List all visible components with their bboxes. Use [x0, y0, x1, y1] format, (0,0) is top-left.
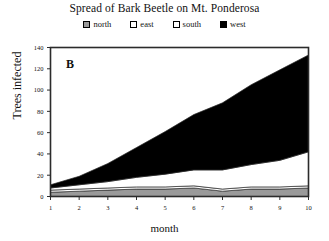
x-tick-label: 5 — [164, 204, 167, 211]
x-tick-label: 8 — [250, 204, 253, 211]
y-tick-label: 100 — [34, 86, 44, 93]
x-tick-label: 1 — [49, 204, 52, 211]
x-tick-label: 9 — [278, 204, 281, 211]
panel-letter: B — [66, 57, 74, 71]
y-tick-label: 40 — [37, 150, 44, 157]
x-tick-label: 4 — [135, 204, 139, 211]
area-bands — [51, 55, 309, 197]
x-tick-label: 2 — [78, 204, 81, 211]
chart-figure: Spread of Bark Beetle on Mt. Ponderosa n… — [0, 0, 329, 241]
x-tick-labels: 12345678910 — [49, 204, 312, 211]
y-tick-label: 20 — [37, 172, 44, 179]
x-tick-label: 6 — [192, 204, 196, 211]
x-tick-label: 7 — [221, 204, 225, 211]
y-tick-label: 120 — [34, 65, 44, 72]
y-tick-labels: 020406080100120140 — [34, 44, 44, 200]
y-tick-label: 140 — [34, 44, 44, 51]
y-tick-label: 80 — [37, 108, 44, 115]
y-tick-label: 60 — [37, 129, 44, 136]
y-tick-label: 0 — [40, 193, 43, 200]
x-tick-label: 10 — [305, 204, 312, 211]
plot-canvas: 020406080100120140 12345678910 B — [0, 0, 329, 241]
x-tick-label: 3 — [106, 204, 109, 211]
